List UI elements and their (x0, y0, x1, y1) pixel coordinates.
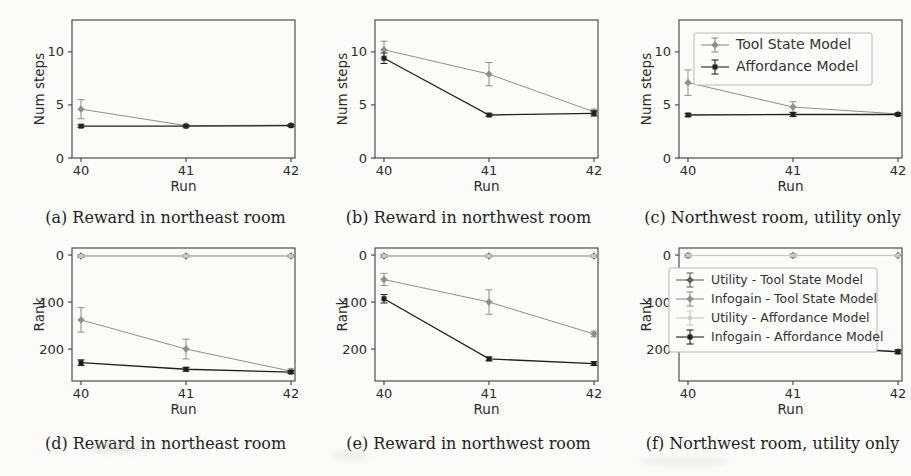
x-tick-label: 40 (679, 386, 696, 401)
legend-label: Utility - Affordance Model (711, 310, 870, 325)
subplot-e-caption: (e) Reward in northwest room (346, 434, 591, 453)
y-tick-label: 200 (646, 342, 671, 357)
data-point-marker (183, 124, 188, 129)
data-point-marker (78, 360, 83, 365)
subplot-f-caption: (f) Northwest room, utility only (646, 434, 899, 453)
y-axis-label: Rank (638, 297, 654, 331)
data-point-marker (790, 112, 795, 117)
x-axis-label: Run (777, 401, 803, 417)
y-tick-label: 10 (654, 44, 671, 59)
x-tick-label: 41 (480, 386, 497, 401)
x-tick-label: 40 (375, 163, 392, 178)
data-point-marker (288, 123, 293, 128)
y-tick-label: 0 (662, 151, 670, 166)
data-point-marker (591, 361, 596, 366)
y-axis-label: Num steps (31, 53, 47, 125)
data-point-marker (77, 105, 84, 112)
subplot-b: 0510404142RunNum steps (b) Reward in nor… (303, 0, 606, 230)
chart-f-canvas: 0100200404142RunRankUtility - Tool State… (609, 232, 909, 424)
data-point-marker (591, 111, 596, 116)
x-tick-label: 40 (375, 386, 392, 401)
series-infogain-affordance-model (77, 360, 294, 375)
data-point-marker (895, 349, 900, 354)
y-tick-label: 5 (55, 97, 63, 112)
legend-box: Utility - Tool State ModelInfogain - Too… (669, 268, 883, 352)
data-point-marker (183, 254, 187, 258)
data-point-marker (486, 254, 490, 258)
subplot-d-caption: (d) Reward in northeast room (45, 434, 286, 453)
x-tick-label: 42 (585, 163, 602, 178)
y-axis-label: Num steps (638, 53, 654, 125)
data-point-marker (380, 46, 387, 53)
subplot-a: 0510404142RunNum steps (a) Reward in nor… (0, 0, 303, 230)
y-tick-label: 5 (662, 97, 670, 112)
data-point-marker (591, 254, 595, 258)
x-tick-label: 40 (72, 163, 89, 178)
series-infogain-tool-state-model (380, 273, 597, 337)
y-tick-label: 0 (55, 151, 63, 166)
series-affordance-model (77, 123, 294, 129)
x-tick-label: 42 (585, 386, 602, 401)
data-point-marker (486, 113, 491, 118)
x-tick-label: 41 (784, 386, 801, 401)
y-tick-label: 0 (358, 248, 366, 263)
y-tick-label: 0 (55, 248, 63, 263)
x-axis-label: Run (170, 178, 196, 194)
series-utility-affordance-model (684, 253, 901, 257)
chart-a: 0510404142RunNum steps (2, 0, 302, 196)
data-point-marker (77, 316, 84, 323)
figure-grid: 0510404142RunNum steps (a) Reward in nor… (0, 0, 911, 476)
series-utility-affordance-model (380, 254, 597, 258)
subplot-d: 0100200404142RunRank (d) Reward in north… (0, 230, 303, 476)
data-point-marker (288, 370, 293, 375)
y-tick-label: 0 (358, 151, 366, 166)
chart-c: 0510404142RunNum stepsTool State ModelAf… (609, 0, 909, 196)
y-axis-label: Rank (334, 297, 350, 331)
data-point-marker (381, 56, 386, 61)
data-point-marker (182, 345, 189, 352)
chart-f: 0100200404142RunRankUtility - Tool State… (609, 232, 909, 420)
data-point-marker (789, 103, 796, 110)
series-tool-state-model (380, 41, 597, 115)
x-axis-label: Run (473, 401, 499, 417)
chart-b-canvas: 0510404142RunNum steps (305, 0, 605, 200)
y-tick-label: 5 (358, 97, 366, 112)
plot-frame (72, 20, 295, 158)
data-point-marker (712, 65, 717, 70)
y-tick-label: 200 (39, 342, 64, 357)
y-tick-label: 10 (350, 44, 367, 59)
x-axis-label: Run (777, 178, 803, 194)
chart-d: 0100200404142RunRank (2, 232, 302, 420)
legend-label: Utility - Tool State Model (711, 272, 863, 287)
data-point-marker (381, 296, 386, 301)
data-point-marker (485, 298, 492, 305)
x-tick-label: 41 (177, 163, 194, 178)
chart-c-canvas: 0510404142RunNum stepsTool State ModelAf… (609, 0, 909, 200)
x-axis-label: Run (170, 401, 196, 417)
data-point-marker (486, 356, 491, 361)
plot-frame (72, 248, 295, 381)
chart-d-canvas: 0100200404142RunRank (2, 232, 302, 424)
plot-frame (375, 20, 598, 158)
data-point-marker (685, 253, 689, 257)
chart-e-canvas: 0100200404142RunRank (305, 232, 605, 424)
x-axis-label: Run (473, 178, 499, 194)
subplot-e: 0100200404142RunRank (e) Reward in north… (303, 230, 606, 476)
subplot-c-caption: (c) Northwest room, utility only (644, 208, 900, 227)
subplot-f: 0100200404142RunRankUtility - Tool State… (606, 230, 911, 476)
data-point-marker (687, 316, 691, 320)
x-tick-label: 42 (282, 163, 299, 178)
subplot-c: 0510404142RunNum stepsTool State ModelAf… (606, 0, 911, 230)
x-tick-label: 42 (282, 386, 299, 401)
subplot-b-caption: (b) Reward in northwest room (346, 208, 591, 227)
legend-label: Tool State Model (735, 36, 851, 52)
data-point-marker (687, 335, 692, 340)
data-point-marker (381, 254, 385, 258)
y-tick-label: 200 (342, 342, 367, 357)
data-point-marker (380, 276, 387, 283)
chart-e: 0100200404142RunRank (305, 232, 605, 420)
chart-b: 0510404142RunNum steps (305, 0, 605, 196)
data-point-marker (790, 253, 794, 257)
data-point-marker (895, 253, 899, 257)
legend-label: Infogain - Affordance Model (711, 329, 883, 344)
